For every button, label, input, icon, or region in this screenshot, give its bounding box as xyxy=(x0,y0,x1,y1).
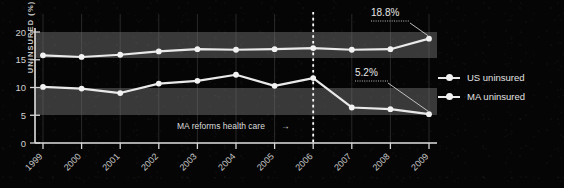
x-axis-ticks: 1999200020012002200320042005200620072008… xyxy=(23,143,430,173)
x-tick-label: 2009 xyxy=(409,151,430,172)
data-point[interactable] xyxy=(426,36,432,42)
y-axis-title-label: UNINSURED (%) xyxy=(26,0,35,92)
reform-note-label: MA reforms health care xyxy=(177,121,265,131)
legend-item-ma[interactable]: MA uninsured xyxy=(438,87,562,106)
data-point[interactable] xyxy=(156,81,162,87)
data-point[interactable] xyxy=(195,78,201,84)
legend-marker-icon xyxy=(438,92,460,102)
callout-ma-label: 5.2% xyxy=(355,67,378,78)
y-tick-label: 20 xyxy=(15,27,26,38)
y-tick-label: 10 xyxy=(15,82,26,93)
data-point[interactable] xyxy=(310,45,316,51)
legend-label-us: US uninsured xyxy=(467,72,525,83)
reform-note-arrow: → xyxy=(281,121,290,131)
x-tick-label: 2004 xyxy=(216,151,237,172)
data-point[interactable] xyxy=(310,75,316,81)
x-tick-label: 2006 xyxy=(293,151,314,172)
x-tick-label: 2002 xyxy=(139,151,160,172)
callout-us-label: 18.8% xyxy=(371,7,399,18)
y-tick-label: 0 xyxy=(21,138,26,149)
data-point[interactable] xyxy=(233,47,239,53)
data-point[interactable] xyxy=(79,86,85,92)
chart-legend: US uninsured MA uninsured xyxy=(438,68,562,106)
data-point[interactable] xyxy=(272,46,278,52)
data-point[interactable] xyxy=(349,47,355,53)
data-point[interactable] xyxy=(388,46,394,52)
legend-label-ma: MA uninsured xyxy=(467,91,525,102)
reform-note: MA reforms health care → xyxy=(177,121,290,131)
data-point[interactable] xyxy=(349,105,355,111)
x-tick-label: 1999 xyxy=(23,151,44,172)
data-point[interactable] xyxy=(117,90,123,96)
data-point[interactable] xyxy=(233,72,239,78)
data-point[interactable] xyxy=(117,52,123,58)
data-point[interactable] xyxy=(388,106,394,112)
x-tick-label: 2003 xyxy=(178,151,199,172)
x-tick-label: 2005 xyxy=(255,151,276,172)
data-point[interactable] xyxy=(156,49,162,55)
x-tick-label: 2008 xyxy=(371,151,392,172)
chart-screenshot: 05101520 1999200020012002200320042005200… xyxy=(0,0,564,188)
y-tick-label: 15 xyxy=(15,54,26,65)
data-point[interactable] xyxy=(426,111,432,117)
legend-item-us[interactable]: US uninsured xyxy=(438,68,562,87)
y-axis-title: UNINSURED (%) xyxy=(26,0,40,92)
callout-ma: 5.2% xyxy=(355,67,388,81)
data-point[interactable] xyxy=(40,84,46,90)
data-point[interactable] xyxy=(272,83,278,89)
data-point[interactable] xyxy=(79,54,85,60)
data-point[interactable] xyxy=(195,46,201,52)
x-tick-label: 2001 xyxy=(100,151,121,172)
x-tick-label: 2000 xyxy=(62,151,83,172)
data-point[interactable] xyxy=(40,52,46,58)
y-tick-label: 5 xyxy=(21,110,26,121)
legend-marker-icon xyxy=(438,73,460,83)
x-tick-label: 2007 xyxy=(332,151,353,172)
